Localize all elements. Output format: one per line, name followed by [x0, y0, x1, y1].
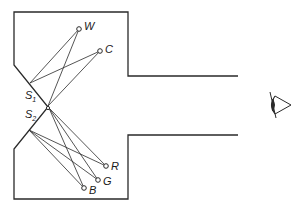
label-b: B	[89, 184, 96, 196]
label-s2: S2	[25, 108, 36, 122]
eye-icon	[270, 92, 291, 118]
label-r: R	[111, 160, 119, 172]
point-w-marker	[77, 27, 82, 32]
point-g-marker	[96, 178, 101, 183]
diagram-canvas: W C R G B S1 S2	[0, 0, 306, 208]
label-c: C	[105, 43, 113, 55]
label-g: G	[103, 175, 112, 187]
rays-upper	[30, 29, 100, 106]
point-c-marker	[98, 49, 103, 54]
point-r-marker	[104, 164, 109, 169]
rays-lower	[29, 108, 106, 188]
point-b-marker	[82, 186, 87, 191]
enclosure-outline	[14, 12, 238, 199]
junction-marker	[46, 106, 49, 109]
point-markers	[46, 27, 108, 191]
label-w: W	[84, 20, 96, 32]
